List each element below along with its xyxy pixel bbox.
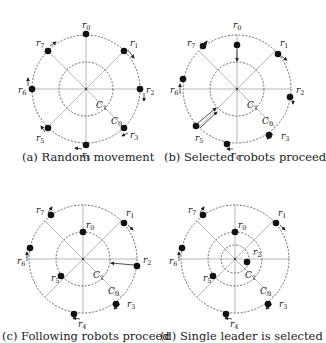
robot-label-r0: r0 [238,220,246,232]
robot-label-r1: r1 [280,38,288,50]
robot-label-r7: r7 [36,205,44,217]
robot-label-r1: r1 [126,208,134,220]
circle-label-c1: C1 [93,270,104,282]
robot-label-r2: r2 [296,85,304,97]
robot-label-r6: r6 [18,85,26,97]
circle-label-c0: C0 [108,286,119,298]
circle-label-c0: C0 [111,116,122,128]
robot-label-r0: r0 [82,20,90,32]
robot-label-r6: r6 [170,85,178,97]
robot-label-r3: r3 [279,299,287,311]
panel-c [27,205,141,319]
robot-label-r7: r7 [36,38,44,50]
robot-label-r3: r3 [281,131,289,143]
panel-d [179,205,289,319]
robot-label-r5: r5 [195,133,203,145]
robot-label-r1: r1 [130,38,138,50]
caption-b: (b) Selected robots proceed [164,150,326,164]
circle-label-c1: C1 [96,100,107,112]
robot-label-r3: r3 [130,130,138,142]
robot-label-r7: r7 [187,38,195,50]
circle-label-c0: C0 [260,286,271,298]
robot-label-r2: r2 [146,85,154,97]
robot-label-r2: r2 [143,255,151,267]
robot-label-r6: r6 [17,256,25,268]
circle-label-c1: C1 [247,100,258,112]
caption-a: (a) Random movement [22,150,154,164]
circle-label-c1: C1 [245,270,256,282]
caption-d: (d) Single leader is selected [160,329,323,343]
robot-label-r0: r0 [86,220,94,232]
panel-a [28,31,144,149]
robot-label-r6: r6 [169,256,177,268]
circle-label-c0: C0 [262,116,273,128]
robot-label-r1: r1 [278,208,286,220]
robot-label-r0: r0 [233,20,241,32]
robot-label-r7: r7 [188,205,196,217]
robot-label-r5: r5 [36,133,44,145]
panel-b [180,35,294,149]
robot-label-r3: r3 [127,299,135,311]
caption-c: (c) Following robots proceed [2,329,170,343]
